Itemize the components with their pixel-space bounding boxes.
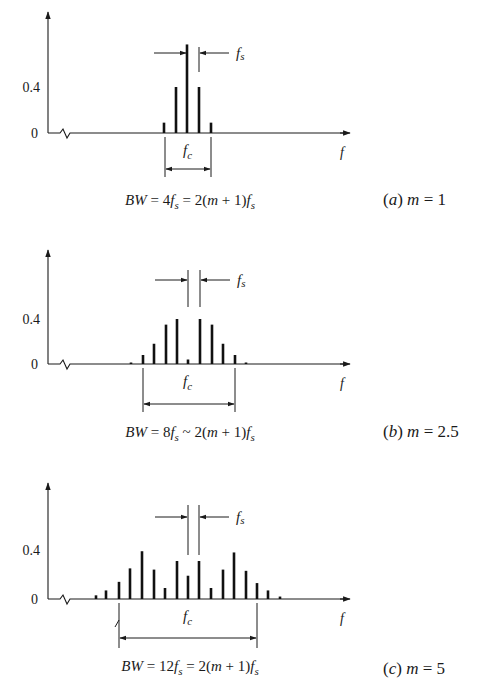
- panel-b-fm-spectrum-m2-5: 00.4ffsfcBW = 8fs ~ 2(m + 1)fs(b) m = 2.…: [23, 250, 459, 443]
- x-axis-label: f: [340, 145, 346, 160]
- y-tick-label-0-4: 0.4: [23, 312, 41, 327]
- panel-caption: (c) m = 5: [383, 659, 445, 678]
- fs-label: fs: [237, 272, 245, 289]
- panel-caption: (a) m = 1: [383, 190, 446, 209]
- fc-label: fc: [183, 608, 192, 627]
- fc-label: fc: [183, 142, 192, 161]
- x-axis-with-break: [48, 360, 348, 369]
- bandwidth-formula: BW = 4fs = 2(m + 1)fs: [125, 192, 255, 211]
- y-tick-label-0: 0: [31, 357, 38, 372]
- x-axis-label: f: [340, 376, 346, 391]
- bandwidth-formula: BW = 12fs = 2(m + 1)fs: [121, 658, 258, 677]
- panel-c-fm-spectrum-m5: 00.4ffsfcBW = 12fs = 2(m + 1)fs(c) m = 5: [23, 483, 446, 678]
- fm-spectrum-figure: 00.4ffsfcBW = 4fs = 2(m + 1)fs(a) m = 1 …: [0, 0, 502, 699]
- x-axis-label: f: [340, 611, 346, 626]
- fc-label: fc: [183, 373, 192, 392]
- fs-label: fs: [236, 45, 244, 62]
- panel-caption: (b) m = 2.5: [383, 422, 459, 441]
- y-tick-label-0: 0: [31, 126, 38, 141]
- stray-tick-mark: [115, 620, 119, 627]
- y-tick-label-0: 0: [31, 592, 38, 607]
- y-tick-label-0-4: 0.4: [23, 80, 41, 95]
- fs-label: fs: [236, 509, 244, 526]
- y-tick-label-0-4: 0.4: [23, 543, 41, 558]
- panel-a-fm-spectrum-m1: 00.4ffsfcBW = 4fs = 2(m + 1)fs(a) m = 1: [23, 12, 446, 211]
- bandwidth-formula: BW = 8fs ~ 2(m + 1)fs: [125, 424, 254, 443]
